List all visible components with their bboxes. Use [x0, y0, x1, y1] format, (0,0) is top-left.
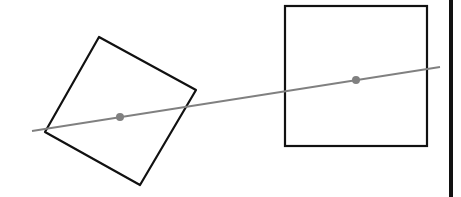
center-connector-line — [32, 67, 440, 131]
upright-square-center-dot — [352, 76, 360, 84]
right-border-bar — [449, 0, 453, 197]
rotated-square-center-dot — [116, 113, 124, 121]
rotated-square — [45, 37, 196, 185]
diagram-canvas — [0, 0, 461, 197]
